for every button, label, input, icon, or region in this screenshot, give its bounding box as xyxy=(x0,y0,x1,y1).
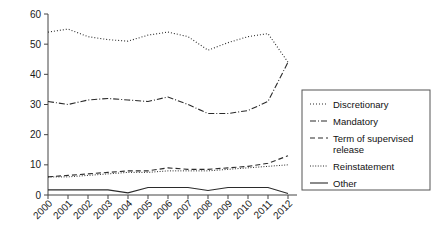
series-group xyxy=(48,29,288,193)
x-tick-label: 2008 xyxy=(191,197,215,221)
x-tick-label: 2000 xyxy=(31,197,55,221)
y-tick-label: 20 xyxy=(30,129,42,140)
y-tick-label: 60 xyxy=(30,9,42,20)
x-tick-label: 2012 xyxy=(271,197,295,221)
x-tick-label: 2005 xyxy=(131,197,155,221)
x-tick-label: 2003 xyxy=(91,197,115,221)
series-line-discretionary xyxy=(48,29,288,62)
line-chart: 0102030405060200020012002200320042005200… xyxy=(0,0,434,238)
x-tick-label: 2009 xyxy=(211,197,235,221)
series-line-mandatory xyxy=(48,62,288,113)
chart-container: 0102030405060200020012002200320042005200… xyxy=(0,0,434,238)
y-tick-label: 50 xyxy=(30,39,42,50)
legend-label: Reinstatement xyxy=(333,161,395,172)
y-tick-label: 0 xyxy=(35,190,41,201)
x-tick-label: 2007 xyxy=(171,197,195,221)
legend-label: Mandatory xyxy=(333,116,378,127)
x-tick-label: 2010 xyxy=(231,197,255,221)
x-tick-label: 2004 xyxy=(111,197,135,221)
series-line-other xyxy=(48,187,288,193)
x-axis-ticks: 2000200120022003200420052006200720082009… xyxy=(31,195,295,221)
legend: DiscretionaryMandatoryTerm of supervised… xyxy=(302,90,430,190)
legend-label: Discretionary xyxy=(333,99,389,110)
x-tick-label: 2011 xyxy=(251,197,274,220)
legend-label-continued: release xyxy=(333,144,364,155)
legend-label: Term of supervised xyxy=(333,133,413,144)
x-tick-label: 2002 xyxy=(71,197,95,221)
y-tick-label: 30 xyxy=(30,99,42,110)
y-axis-ticks: 0102030405060 xyxy=(30,9,48,201)
x-tick-label: 2001 xyxy=(51,197,75,221)
y-tick-label: 40 xyxy=(30,69,42,80)
legend-label: Other xyxy=(333,178,357,189)
x-tick-label: 2006 xyxy=(151,197,175,221)
series-line-term-of-supervised-release xyxy=(48,156,288,177)
y-tick-label: 10 xyxy=(30,159,42,170)
series-line-reinstatement xyxy=(48,165,288,177)
